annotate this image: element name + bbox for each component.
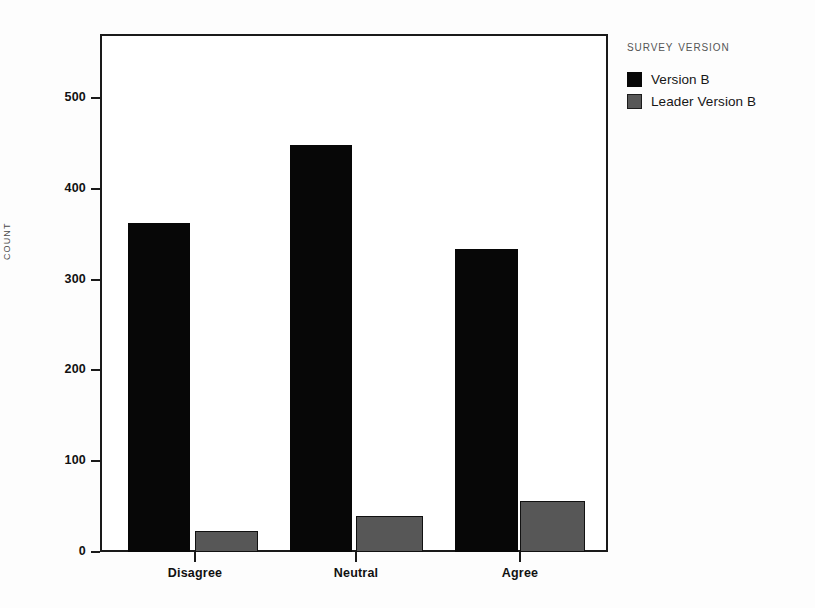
y-tick-label: 400 [65,181,86,195]
x-tick-mark [194,552,196,562]
y-tick-label: 500 [65,90,86,104]
legend-swatch-icon [627,72,642,87]
y-tick-label: 300 [65,272,86,286]
chart-canvas: Count 0100200300400500 DisagreeNeutralAg… [0,0,815,608]
x-tick-label: Agree [460,566,580,580]
x-tick-label: Disagree [135,566,255,580]
legend-swatch-icon [627,94,642,109]
y-tick-mark [91,188,100,190]
y-tick-label: 0 [79,544,86,558]
bar-agree-leader-version-b [520,501,585,552]
y-tick-mark [91,369,100,371]
legend: Survey Version Version BLeader Version B [627,38,807,116]
bar-neutral-leader-version-b [356,516,423,552]
y-tick-mark [91,97,100,99]
bar-neutral-version-b [290,145,352,552]
y-tick-label: 100 [65,453,86,467]
bar-agree-version-b [455,249,518,552]
y-tick-mark [91,460,100,462]
y-tick-label: 200 [65,362,86,376]
y-tick-mark [91,551,100,553]
x-tick-mark [355,552,357,562]
legend-item-label: Leader Version B [651,94,756,109]
legend-item-version-b: Version B [627,72,807,87]
x-tick-label: Neutral [296,566,416,580]
x-tick-mark [519,552,521,562]
legend-items: Version BLeader Version B [627,72,807,109]
legend-item-leader-version-b: Leader Version B [627,94,807,109]
y-tick-mark [91,279,100,281]
y-axis-label: Count [0,120,13,260]
bar-disagree-version-b [128,223,190,552]
legend-title: Survey Version [627,38,807,54]
legend-item-label: Version B [651,72,710,87]
bar-disagree-leader-version-b [195,531,258,552]
bars-layer [102,36,606,550]
